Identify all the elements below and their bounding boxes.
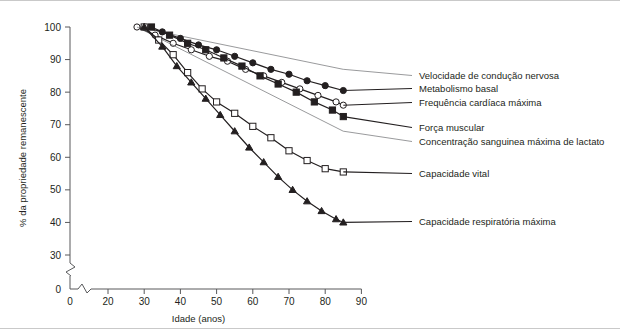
legend-leader-line xyxy=(343,117,412,128)
marker-circle-filled xyxy=(250,60,256,66)
legend-leader-line xyxy=(343,89,412,91)
marker-triangle-filled xyxy=(332,216,339,222)
legend-label: Capacidade respiratória máxima xyxy=(419,216,556,227)
y-axis-break xyxy=(66,263,75,276)
legend-label: Concentração sanguinea máxima de lactato xyxy=(419,136,604,147)
y-tick-label: 40 xyxy=(50,217,62,228)
x-axis-break xyxy=(78,284,91,293)
marker-square-open xyxy=(268,135,274,141)
y-tick-label: 60 xyxy=(50,152,62,163)
x-tick-label: 60 xyxy=(247,296,259,307)
marker-square-open xyxy=(286,148,292,154)
y-tick-label: 30 xyxy=(50,250,62,261)
marker-square-filled xyxy=(311,99,317,105)
marker-square-filled xyxy=(185,40,191,46)
marker-circle-open xyxy=(188,47,194,53)
legend-leader-line xyxy=(343,172,412,174)
legend-label: Frequência cardíaca máxima xyxy=(419,97,542,108)
marker-square-open xyxy=(170,52,176,58)
marker-square-filled xyxy=(166,32,172,38)
legend: Velocidade de condução nervosaMetabolism… xyxy=(343,69,604,227)
x-tick-label: 20 xyxy=(102,296,114,307)
x-tick-label: 40 xyxy=(175,296,187,307)
legend-label: Capacidade vital xyxy=(419,168,489,179)
x-tick-label: 0 xyxy=(67,296,73,307)
y-axis-title: % da propriedade remanescente xyxy=(17,89,28,227)
y-tick-label: 0 xyxy=(55,284,61,295)
series-group xyxy=(134,23,347,225)
marker-square-open xyxy=(214,99,220,105)
marker-square-filled xyxy=(239,63,245,69)
marker-circle-open xyxy=(206,53,212,59)
series-line xyxy=(137,27,343,131)
marker-square-filled xyxy=(221,55,227,61)
marker-circle-filled xyxy=(286,71,292,77)
legend-leader-line xyxy=(343,131,412,141)
marker-square-filled xyxy=(329,107,335,113)
marker-square-open xyxy=(185,70,191,76)
y-tick-label: 90 xyxy=(50,54,62,65)
marker-square-open xyxy=(304,157,310,163)
marker-circle-open xyxy=(315,92,321,98)
marker-circle-filled xyxy=(304,78,310,84)
legend-label: Força muscular xyxy=(419,122,484,133)
legend-leader-line xyxy=(343,69,412,75)
marker-circle-filled xyxy=(232,53,238,59)
marker-square-filled xyxy=(257,73,263,79)
marker-circle-open xyxy=(134,24,140,30)
marker-circle-filled xyxy=(268,66,274,72)
x-tick-label: 80 xyxy=(320,296,332,307)
marker-triangle-filled xyxy=(318,207,325,213)
x-tick-label: 30 xyxy=(139,296,151,307)
marker-square-filled xyxy=(203,47,209,53)
legend-label: Velocidade de condução nervosa xyxy=(419,70,560,81)
y-tick-label: 80 xyxy=(50,87,62,98)
legend-leader-line xyxy=(343,103,412,106)
x-tick-label: 50 xyxy=(211,296,223,307)
marker-square-filled xyxy=(293,89,299,95)
marker-square-filled xyxy=(148,24,154,30)
legend-leader-line xyxy=(343,222,412,223)
legend-label: Metabolismo basal xyxy=(419,83,498,94)
y-tick-label: 70 xyxy=(50,119,62,130)
marker-circle-filled xyxy=(214,47,220,53)
marker-circle-filled xyxy=(322,83,328,89)
x-axis-title: Idade (anos) xyxy=(172,313,225,324)
x-tick-label: 70 xyxy=(283,296,295,307)
marker-square-filled xyxy=(275,81,281,87)
axes: 03040506070809010002030405060708090Idade… xyxy=(17,22,367,325)
marker-square-open xyxy=(232,110,238,116)
marker-square-open xyxy=(322,166,328,172)
marker-square-open xyxy=(250,123,256,129)
marker-square-open xyxy=(199,86,205,92)
marker-circle-open xyxy=(333,99,339,105)
line-chart: 03040506070809010002030405060708090Idade… xyxy=(0,1,620,329)
series-5 xyxy=(137,27,343,131)
y-tick-label: 100 xyxy=(44,22,61,33)
y-tick-label: 50 xyxy=(50,184,62,195)
chart-figure: 03040506070809010002030405060708090Idade… xyxy=(0,0,620,329)
x-tick-label: 90 xyxy=(356,296,368,307)
